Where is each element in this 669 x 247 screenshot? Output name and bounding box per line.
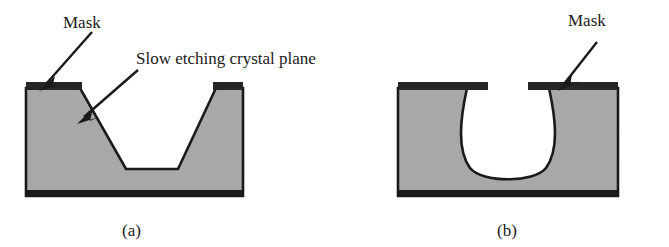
panel-b-graphic	[398, 42, 618, 197]
caption-a: (a)	[122, 222, 141, 239]
substrate-a-base-line	[26, 190, 243, 197]
substrate-b-base-line	[398, 190, 618, 197]
mask-layer-b-left	[398, 82, 488, 90]
caption-b: (b)	[497, 222, 517, 239]
etch-profile-diagram	[0, 0, 669, 247]
substrate-a	[26, 88, 243, 196]
annotation-mask-a: Mask	[63, 14, 101, 31]
substrate-b	[398, 88, 618, 196]
mask-layer-a-right	[213, 82, 243, 90]
mask-layer-b-right	[528, 82, 618, 90]
annotation-mask-b: Mask	[568, 12, 606, 29]
annotation-slow-etching-crystal-plane: Slow etching crystal plane	[136, 50, 316, 67]
figure-container: Mask Slow etching crystal plane Mask (a)…	[0, 0, 669, 247]
